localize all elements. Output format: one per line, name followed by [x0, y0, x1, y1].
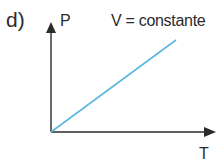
pt-graph	[0, 0, 224, 167]
data-line	[51, 40, 176, 132]
y-axis-arrow-icon	[46, 22, 56, 33]
x-axis-arrow-icon	[204, 127, 216, 137]
